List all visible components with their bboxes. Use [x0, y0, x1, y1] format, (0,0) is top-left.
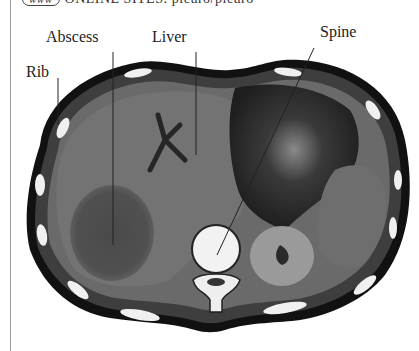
abscess-region [70, 185, 154, 281]
label-abscess: Abscess [46, 28, 98, 46]
vertebral-body [192, 225, 240, 273]
label-liver: Liver [152, 28, 187, 46]
label-rib: Rib [26, 63, 49, 81]
ct-scan-image [0, 0, 419, 351]
label-spine: Spine [320, 23, 356, 41]
